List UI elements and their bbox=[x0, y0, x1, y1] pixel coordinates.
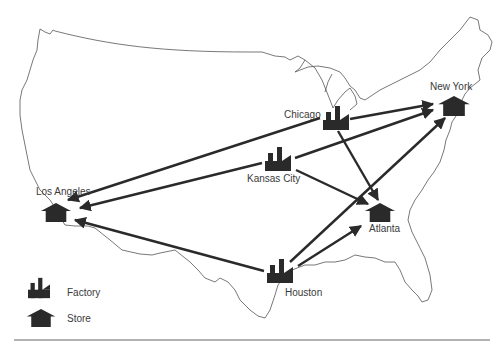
city-label-los-angeles: Los Angeles bbox=[36, 186, 91, 197]
factory-icon bbox=[267, 259, 293, 283]
store-atlanta: Atlanta bbox=[365, 203, 401, 234]
route-chicago-losangeles bbox=[68, 118, 320, 200]
factory-icon bbox=[265, 147, 291, 171]
store-icon bbox=[41, 203, 71, 222]
route-chicago-newyork bbox=[350, 104, 433, 119]
store-icon bbox=[438, 96, 470, 116]
legend-factory-label: Factory bbox=[67, 287, 100, 298]
store-new-york: New York bbox=[430, 81, 473, 116]
legend-factory-icon bbox=[28, 278, 50, 298]
city-label-houston: Houston bbox=[285, 287, 322, 298]
legend: Factory Store bbox=[27, 278, 101, 327]
route-kansascity-losangeles bbox=[80, 163, 262, 208]
us-border bbox=[20, 17, 492, 318]
legend-store-label: Store bbox=[67, 313, 91, 324]
city-label-chicago: Chicago bbox=[284, 109, 321, 120]
city-label-new-york: New York bbox=[430, 81, 473, 92]
routes bbox=[68, 104, 445, 271]
us-distribution-map: Chicago Kansas City Houston New York Los… bbox=[0, 0, 502, 354]
store-los-angeles: Los Angeles bbox=[36, 186, 91, 222]
city-label-kansas-city: Kansas City bbox=[247, 173, 300, 184]
factory-icon bbox=[323, 106, 349, 130]
legend-store-icon bbox=[27, 309, 56, 327]
store-icon bbox=[365, 203, 395, 222]
city-label-atlanta: Atlanta bbox=[369, 223, 401, 234]
route-houston-losangeles bbox=[75, 220, 264, 271]
